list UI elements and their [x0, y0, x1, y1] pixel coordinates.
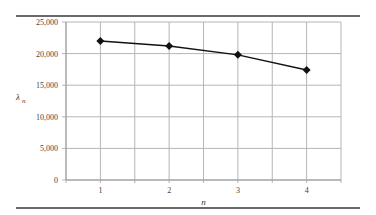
- y-axis-label: λ: [15, 92, 20, 102]
- y-tick-label: 15,000: [36, 81, 58, 90]
- y-tick-label: 20,000: [36, 50, 58, 59]
- diamond-marker: [165, 42, 173, 50]
- x-axis-label: n: [201, 197, 206, 207]
- x-tick-label: 1: [98, 186, 102, 195]
- y-tick-label: 10,000: [36, 113, 58, 122]
- x-tick-label: 2: [167, 186, 171, 195]
- y-tick-label: 0: [54, 176, 58, 185]
- x-tick-label: 3: [236, 186, 240, 195]
- y-tick-label: 25,000: [36, 18, 58, 27]
- diamond-marker: [303, 66, 311, 74]
- y-axis-label-subscript: n: [22, 97, 26, 105]
- diamond-marker: [234, 51, 242, 59]
- diamond-marker: [96, 37, 104, 45]
- x-tick-label: 4: [305, 186, 309, 195]
- line-chart: 05,00010,00015,00020,00025,0001234nλn: [0, 0, 376, 215]
- y-tick-label: 5,000: [40, 144, 58, 153]
